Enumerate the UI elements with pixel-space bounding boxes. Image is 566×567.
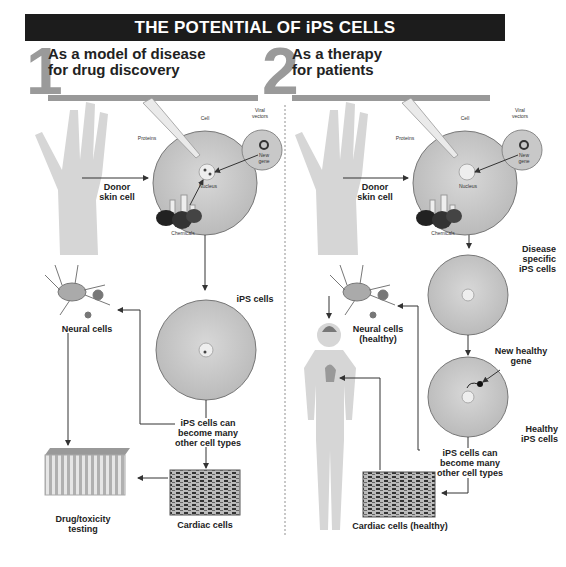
become-line2: become many [170, 428, 246, 438]
donor-skin-cell-label-1: Donor skin cell [92, 182, 142, 202]
disease-line1: Disease [500, 244, 556, 254]
healthy-line1: Healthy [498, 424, 558, 434]
neuron-icon-1 [45, 265, 110, 318]
cardiac-tissue-2 [363, 472, 435, 517]
proteins-label-1: Proteins [132, 135, 162, 141]
drug-line2: testing [48, 524, 118, 534]
proteins-label-2: Proteins [390, 135, 420, 141]
diagram-graphics [0, 0, 566, 567]
donor-line1: Donor [350, 182, 400, 192]
new-healthy-line2: gene [486, 356, 556, 366]
become-line2: become many [432, 458, 508, 468]
healthy-ips-label: Healthy iPS cells [498, 424, 558, 444]
viral-line2: vectors [505, 113, 535, 119]
viral-vectors-label-1: Viral vectors [245, 107, 275, 119]
chemicals-label-2: Chemicals [425, 230, 461, 236]
viral-line2: vectors [245, 113, 275, 119]
new-gene-label-2: New gene [512, 152, 536, 164]
chemicals-label-1: Chemicals [165, 230, 201, 236]
new-healthy-line1: New healthy [486, 346, 556, 356]
new-gene-label-1: New gene [252, 152, 276, 164]
healthy-line2: iPS cells [498, 434, 558, 444]
new-gene-line2: gene [252, 158, 276, 164]
drug-testing-plate-icon [45, 448, 130, 495]
cell-label-1: Cell [195, 115, 215, 121]
become-line1: iPS cells can [432, 448, 508, 458]
drug-line1: Drug/toxicity [48, 514, 118, 524]
donor-skin-cell-label-2: Donor skin cell [350, 182, 400, 202]
neural-cells-label-1: Neural cells [52, 324, 122, 334]
become-line3: other cell types [170, 438, 246, 448]
neural-line1: Neural cells [340, 324, 416, 334]
donor-line1: Donor [92, 182, 142, 192]
become-many-label-1: iPS cells can become many other cell typ… [170, 418, 246, 448]
ips-cells-label-1: iPS cells [230, 294, 280, 304]
new-healthy-gene-label: New healthy gene [486, 346, 556, 366]
neural-cells-healthy-label: Neural cells (healthy) [340, 324, 416, 344]
cardiac-healthy-label: Cardiac cells (healthy) [350, 521, 450, 531]
drug-testing-label: Drug/toxicity testing [48, 514, 118, 534]
nucleus-label-1: Nucleus [195, 183, 221, 189]
donor-line2: skin cell [92, 192, 142, 202]
cell-label-2: Cell [455, 115, 475, 121]
become-many-label-2: iPS cells can become many other cell typ… [432, 448, 508, 478]
neuron-icon-2 [330, 265, 395, 318]
cardiac-tissue-1 [170, 470, 240, 515]
disease-line2: specific [500, 254, 556, 264]
human-body-icon [304, 323, 356, 530]
cardiac-cells-label-1: Cardiac cells [168, 520, 242, 530]
become-line1: iPS cells can [170, 418, 246, 428]
disease-line3: iPS cells [500, 264, 556, 274]
new-gene-line2: gene [512, 158, 536, 164]
viral-vectors-label-2: Viral vectors [505, 107, 535, 119]
become-line3: other cell types [432, 468, 508, 478]
disease-specific-label: Disease specific iPS cells [500, 244, 556, 274]
nucleus-label-2: Nucleus [455, 183, 481, 189]
neural-line2: (healthy) [340, 334, 416, 344]
donor-line2: skin cell [350, 192, 400, 202]
